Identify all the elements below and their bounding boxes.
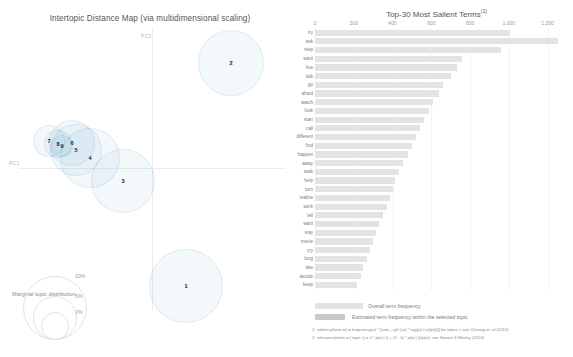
term-bar-row[interactable]: watch	[315, 99, 567, 107]
term-bar-label[interactable]: help	[304, 177, 313, 185]
term-bar-row[interactable]: different	[315, 133, 567, 141]
term-bar-row[interactable]: stay	[315, 229, 567, 237]
topic-bubble-label-2: 2	[229, 60, 232, 66]
term-bar-label[interactable]: watch	[301, 99, 313, 107]
term-bar-label[interactable]: want	[303, 55, 313, 63]
terms-chart-title-superscript: (1)	[481, 8, 487, 14]
term-bar-row[interactable]: keep	[315, 281, 567, 289]
term-bar-overall-frequency	[315, 186, 393, 192]
term-bar-overall-frequency	[315, 125, 420, 131]
term-bar-overall-frequency	[315, 143, 412, 149]
term-bar-row[interactable]: live	[315, 64, 567, 72]
term-bar-row[interactable]: movie	[315, 238, 567, 246]
term-bar-row[interactable]: start	[315, 116, 567, 124]
term-bar-row[interactable]: go	[315, 81, 567, 89]
term-bar-row[interactable]: find	[315, 142, 567, 150]
term-bar-row[interactable]: long	[315, 255, 567, 263]
term-bar-label[interactable]: want	[303, 220, 313, 228]
term-bar-row[interactable]: cry	[315, 247, 567, 255]
term-bar-label[interactable]: keep	[303, 281, 313, 289]
term-bar-row[interactable]: want	[315, 55, 567, 63]
topic-bubble-label-1: 1	[184, 283, 187, 289]
term-bar-overall-frequency	[315, 99, 433, 105]
term-bar-overall-frequency	[315, 151, 408, 157]
map-axis-label-pc1: PC1	[9, 160, 20, 166]
term-bar-row[interactable]: happen	[315, 151, 567, 159]
x-axis-tick-label: 600	[427, 20, 435, 26]
term-bar-row[interactable]: talk	[315, 73, 567, 81]
map-axis-label-pc2: PC2	[141, 33, 152, 39]
term-bar-label[interactable]: step	[304, 46, 313, 54]
x-axis-tick-label: 400	[388, 20, 396, 26]
topic-bubble-label-9: 9	[60, 143, 63, 149]
term-bar-overall-frequency	[315, 204, 387, 210]
term-bar-overall-frequency	[315, 160, 403, 166]
term-bar-label[interactable]: movie	[301, 238, 313, 246]
term-bar-label[interactable]: long	[304, 255, 313, 263]
term-bar-row[interactable]: try	[315, 29, 567, 37]
term-bar-row[interactable]: want	[315, 220, 567, 228]
term-bar-row[interactable]: decide	[315, 273, 567, 281]
term-bar-label[interactable]: look	[305, 107, 313, 115]
marginal-legend-circle-10pct	[23, 276, 87, 340]
term-bar-row[interactable]: turn	[315, 186, 567, 194]
term-bar-overall-frequency	[315, 282, 357, 288]
term-bar-row[interactable]: work	[315, 203, 567, 211]
term-bar-overall-frequency	[315, 273, 361, 279]
term-bar-row[interactable]: walk	[315, 168, 567, 176]
legend-label-selected-topic: Estimated term frequency within the sele…	[352, 314, 468, 320]
term-bar-overall-frequency	[315, 264, 363, 270]
term-bar-row[interactable]: afraid	[315, 90, 567, 98]
term-bar-label[interactable]: cry	[307, 247, 313, 255]
term-bar-label[interactable]: tell	[307, 212, 313, 220]
term-bar-label[interactable]: realize	[299, 194, 313, 202]
term-bar-overall-frequency	[315, 56, 462, 62]
term-bar-label[interactable]: live	[306, 64, 313, 72]
term-bar-label[interactable]: decide	[299, 273, 313, 281]
term-bar-overall-frequency	[315, 73, 451, 79]
legend-swatch-selected-topic	[315, 314, 345, 320]
term-bar-label[interactable]: stay	[305, 229, 313, 237]
x-axis-tick-label: 1,000	[503, 20, 516, 26]
term-bar-label[interactable]: talk	[306, 73, 313, 81]
term-bar-label[interactable]: turn	[305, 186, 313, 194]
term-bar-overall-frequency	[315, 256, 367, 262]
term-bar-label[interactable]: walk	[304, 168, 313, 176]
term-bar-label[interactable]: late	[306, 264, 313, 272]
term-bar-row[interactable]: call	[315, 125, 567, 133]
term-bar-row[interactable]: realize	[315, 194, 567, 202]
term-bar-label[interactable]: try	[308, 29, 313, 37]
term-bar-label[interactable]: go	[308, 81, 313, 89]
term-bar-label[interactable]: afraid	[302, 90, 314, 98]
term-bar-label[interactable]: call	[306, 125, 313, 133]
term-bar-label[interactable]: away	[302, 160, 313, 168]
term-bar-row[interactable]: tell	[315, 212, 567, 220]
term-bar-label[interactable]: work	[303, 203, 313, 211]
legend-swatch-overall	[315, 303, 363, 309]
chart-footnote: 2. relevance(term w | topic t) = λ * p(w…	[312, 335, 484, 340]
salient-terms-panel: Top-30 Most Salient Terms(1) 02004006008…	[300, 0, 573, 357]
intertopic-distance-map-panel: Intertopic Distance Map (via multidimens…	[0, 0, 300, 357]
term-bar-label[interactable]: start	[304, 116, 313, 124]
term-bar-overall-frequency	[315, 195, 390, 201]
term-bar-row[interactable]: ask	[315, 38, 567, 46]
term-bar-label[interactable]: different	[296, 133, 313, 141]
term-bar-label[interactable]: find	[306, 142, 313, 150]
x-axis-tick-label: 1,200	[541, 20, 554, 26]
term-bar-overall-frequency	[315, 212, 383, 218]
term-bar-overall-frequency	[315, 247, 370, 253]
legend-label-overall: Overall term frequency	[368, 303, 420, 309]
term-bar-row[interactable]: look	[315, 107, 567, 115]
topic-bubble-label-3: 3	[121, 178, 124, 184]
x-axis-tick-label: 0	[314, 20, 317, 26]
term-bar-row[interactable]: late	[315, 264, 567, 272]
map-title: Intertopic Distance Map (via multidimens…	[0, 14, 300, 23]
term-bar-row[interactable]: help	[315, 177, 567, 185]
term-bar-row[interactable]: step	[315, 46, 567, 54]
term-bar-overall-frequency	[315, 30, 510, 36]
term-bar-label[interactable]: happen	[298, 151, 313, 159]
term-bar-overall-frequency	[315, 117, 424, 123]
term-bar-label[interactable]: ask	[306, 38, 313, 46]
x-axis-tick-label: 800	[466, 20, 474, 26]
term-bar-row[interactable]: away	[315, 160, 567, 168]
